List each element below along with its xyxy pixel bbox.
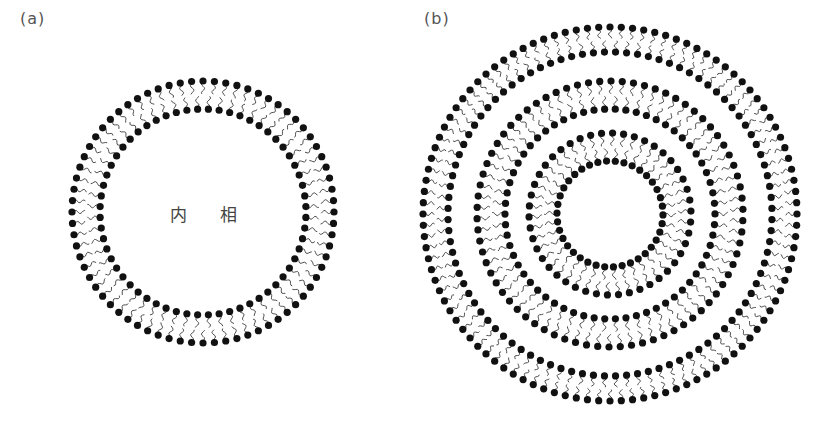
lipid-tail	[432, 256, 440, 259]
lipid-head	[635, 255, 642, 262]
lipid-head	[570, 249, 577, 256]
lipid-head	[422, 244, 429, 251]
lipid-tail	[691, 286, 698, 292]
lipid-head	[579, 51, 586, 58]
lipid-tail	[689, 63, 694, 70]
lipid-head	[680, 321, 687, 328]
lipid-tail	[506, 346, 511, 353]
lipid-head	[671, 127, 678, 134]
lipid-head	[284, 309, 291, 316]
lipid-tail	[749, 120, 756, 125]
lipid-head	[275, 316, 282, 323]
lipid-tail	[677, 299, 683, 306]
lipid-head	[272, 281, 279, 288]
lipid-head	[134, 322, 141, 329]
lipid-head	[736, 239, 743, 246]
lipid-head	[421, 233, 428, 240]
lipid-head	[216, 310, 223, 317]
lipid-tail	[301, 139, 309, 144]
lipid-tail	[95, 249, 104, 253]
lipid-head	[742, 299, 749, 306]
lipid-head	[419, 210, 426, 217]
lipid-tail	[671, 367, 675, 374]
lipid-tail	[566, 271, 571, 279]
lipid-head	[520, 45, 527, 52]
lipid-head	[729, 104, 736, 111]
lipid-head	[619, 78, 626, 85]
lipid-tail	[159, 91, 164, 100]
lipid-tail	[429, 180, 437, 184]
lipid-head	[466, 334, 473, 341]
lipid-head	[633, 312, 640, 319]
lipid-head	[183, 107, 190, 114]
lipid-tail	[212, 84, 215, 94]
lipid-head	[540, 36, 547, 43]
lipid-head	[601, 48, 608, 55]
lipid-head	[693, 376, 700, 383]
lipid-tail	[533, 225, 542, 228]
lipid-tail	[496, 70, 501, 77]
lipid-head	[115, 309, 122, 316]
lipid-head	[722, 63, 729, 70]
lipid-head	[760, 104, 767, 111]
lipid-tail	[665, 224, 674, 227]
lipid-tail	[75, 221, 84, 224]
lipid-tail	[504, 284, 512, 290]
lipid-tail	[546, 53, 550, 61]
lipid-tail	[667, 305, 672, 314]
lipid-tail	[690, 358, 695, 365]
lipid-head	[98, 192, 105, 199]
lipid-tail	[625, 281, 629, 290]
lipid-head	[620, 159, 627, 166]
lipid-head	[307, 284, 314, 291]
lipid-tail	[648, 166, 654, 173]
lipid-head	[510, 370, 517, 377]
lipid-tail	[699, 147, 706, 153]
lipid-tail	[293, 289, 300, 295]
lipid-head	[788, 255, 795, 262]
lipid-tail	[504, 358, 509, 365]
lipid-tail	[244, 92, 248, 101]
lipid-tail	[557, 372, 561, 380]
lipid-head	[699, 115, 706, 122]
lipid-head	[777, 134, 784, 141]
lipid-tail	[603, 322, 606, 331]
lipid-head	[617, 343, 624, 350]
lipid-tail	[460, 129, 466, 134]
lipid-tail	[480, 339, 486, 344]
lipid-tail	[320, 189, 329, 192]
lipid-head	[686, 69, 693, 76]
lipid-tail	[302, 169, 311, 173]
lipid-head	[593, 290, 600, 297]
lipid-tail	[529, 308, 535, 315]
lipid-head	[291, 162, 298, 169]
lipid-tail	[565, 36, 569, 44]
lipid-tail	[678, 106, 684, 114]
lipid-tail	[306, 271, 315, 276]
lipid-head	[328, 231, 335, 238]
lipid-tail	[507, 75, 512, 81]
lipid-head	[506, 242, 513, 249]
lipid-head	[764, 249, 771, 256]
multilamellar-vesicle	[419, 23, 800, 404]
lipid-tail	[305, 239, 314, 243]
lipid-head	[73, 242, 80, 249]
lipid-tail	[634, 278, 639, 287]
lipid-head	[653, 186, 660, 193]
lipid-tail	[651, 92, 655, 101]
lipid-head	[551, 389, 558, 396]
lipid-head	[459, 95, 466, 102]
lipid-head	[527, 142, 534, 149]
lipid-tail	[582, 264, 587, 273]
lipid-tail	[700, 351, 705, 358]
lipid-head	[703, 370, 710, 377]
lipid-tail	[87, 262, 96, 267]
lipid-tail	[107, 148, 115, 153]
lipid-tail	[712, 146, 720, 151]
lipid-tail	[711, 77, 716, 83]
lipid-head	[292, 301, 299, 308]
lipid-head	[518, 346, 525, 353]
lipid-head	[473, 215, 480, 222]
lipid-tail	[672, 180, 680, 185]
lipid-head	[610, 263, 617, 270]
